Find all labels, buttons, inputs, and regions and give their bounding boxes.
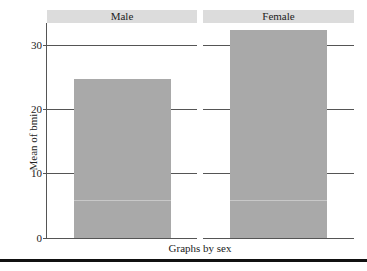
gridline-male-30 (47, 45, 197, 46)
bar-seam (74, 200, 171, 201)
y-tick-label-10: 10 (12, 167, 42, 179)
bar-female (230, 30, 327, 238)
panel-strip-male: Male (47, 10, 197, 23)
panel-label-male: Male (111, 10, 134, 22)
panel-label-female: Female (262, 10, 294, 22)
baseline-male (47, 238, 197, 239)
bar-male (74, 79, 171, 238)
panel-strip-female: Female (203, 10, 354, 23)
bottom-rule (0, 259, 367, 262)
y-tick-label-0: 0 (12, 232, 42, 244)
baseline-female (203, 238, 354, 239)
bar-seam (230, 200, 327, 201)
graphs-by-note: Graphs by sex (140, 242, 260, 254)
y-tick-label-20: 20 (12, 103, 42, 115)
y-axis-line (46, 23, 47, 239)
y-tick-label-30: 30 (12, 39, 42, 51)
